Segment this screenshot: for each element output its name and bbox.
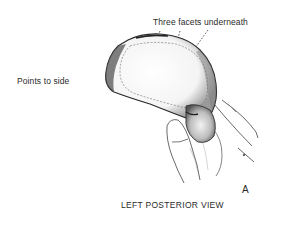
annotation-three-facets: Three facets underneath <box>153 17 248 27</box>
figure-canvas: Three facets underneath Points to side A… <box>0 0 286 229</box>
figure-caption: LEFT POSTERIOR VIEW <box>121 200 224 210</box>
panel-letter: A <box>242 184 249 195</box>
annotation-points-to-side: Points to side <box>17 76 69 86</box>
bone-shape <box>106 34 217 143</box>
